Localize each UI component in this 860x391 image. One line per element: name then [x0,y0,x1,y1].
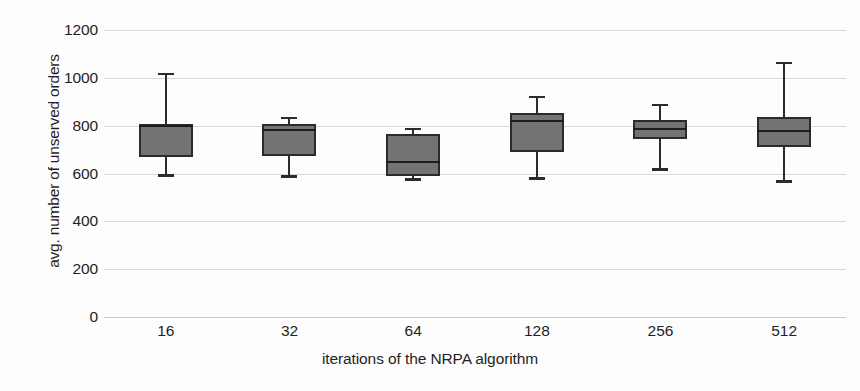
lower-whisker-cap [776,180,792,183]
lower-whisker [783,147,785,180]
upper-whisker-cap [776,62,792,64]
x-axis-title: iterations of the NRPA algorithm [0,350,860,368]
lower-whisker [659,139,661,169]
lower-whisker [165,157,167,175]
y-tick-label-200: 200 [34,260,98,278]
median-line [633,128,687,130]
x-tick-label-256: 256 [621,322,701,340]
median-line [386,161,440,163]
median-line [757,130,811,132]
upper-whisker [783,62,785,116]
upper-whisker-cap [158,73,174,75]
lower-whisker-cap [405,178,421,181]
y-tick-label-1000: 1000 [34,69,98,87]
box-plot-64[interactable] [351,30,475,317]
upper-whisker-cap [529,96,545,98]
y-tick-label-600: 600 [34,165,98,183]
box-plot-32[interactable] [228,30,352,317]
median-line [139,125,193,127]
gridline-0 [104,317,846,318]
upper-whisker-cap [405,128,421,130]
box-iqr [386,134,440,176]
y-tick-label-0: 0 [34,308,98,326]
lower-whisker [536,152,538,178]
y-tick-label-800: 800 [34,117,98,135]
x-axis-tick-labels: 163264128256512 [104,322,846,346]
upper-whisker-cap [652,104,668,106]
box-plot-512[interactable] [722,30,846,317]
x-tick-label-64: 64 [373,322,453,340]
box-plot-chart: avg. number of unserved orders 020040060… [0,0,860,391]
upper-whisker-cap [281,117,297,119]
x-tick-label-16: 16 [126,322,206,340]
y-tick-label-400: 400 [34,212,98,230]
x-tick-label-32: 32 [250,322,330,340]
lower-whisker-cap [281,175,297,178]
y-axis-tick-labels: 020040060080010001200 [26,0,98,391]
median-line [510,120,564,122]
lower-whisker-cap [158,174,174,177]
lower-whisker-cap [652,168,668,171]
median-line [262,129,316,131]
upper-whisker [165,73,167,124]
upper-whisker [536,96,538,113]
box-iqr [510,113,564,152]
plot-area [104,30,846,317]
box-iqr [139,124,193,156]
box-plot-256[interactable] [599,30,723,317]
lower-whisker [288,156,290,177]
y-tick-label-1200: 1200 [34,21,98,39]
box-plot-128[interactable] [475,30,599,317]
box-plot-16[interactable] [104,30,228,317]
lower-whisker-cap [529,177,545,180]
upper-whisker [659,104,661,120]
x-tick-label-128: 128 [497,322,577,340]
x-tick-label-512: 512 [744,322,824,340]
